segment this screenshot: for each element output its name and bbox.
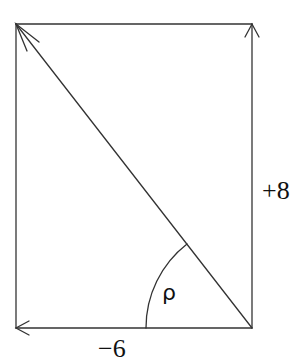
angle-label: ρ <box>162 280 176 305</box>
resultant-line <box>16 24 252 328</box>
horizontal-component-label: −6 <box>98 334 126 362</box>
vertical-component-label: +8 <box>262 176 290 206</box>
vector-diagram <box>0 0 301 362</box>
